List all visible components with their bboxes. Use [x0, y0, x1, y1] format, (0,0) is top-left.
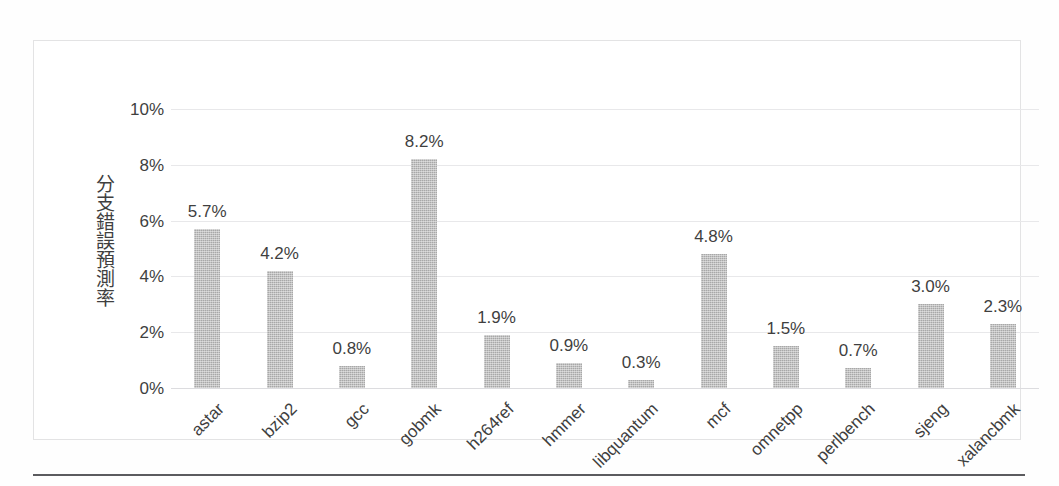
bar: [773, 346, 799, 388]
gridline: [171, 109, 1039, 110]
y-axis-tick-labels: 10%8%6%4%2%0%: [96, 109, 164, 388]
bar-value-label: 1.9%: [454, 309, 540, 327]
bar: [339, 366, 365, 388]
gridline: [171, 165, 1039, 166]
bar-value-label: 2.3%: [960, 298, 1046, 316]
y-axis-tick-label: 8%: [104, 157, 164, 174]
y-axis-tick-label: 6%: [104, 213, 164, 230]
bar-value-label: 0.3%: [598, 354, 684, 372]
chart-frame: 分支錯誤預測率 10%8%6%4%2%0% 5.7%4.2%0.8%8.2%1.…: [33, 40, 1021, 440]
bar: [628, 380, 654, 388]
x-axis-category-labels: astarbzip2gccgobmkh264refhmmerlibquantum…: [171, 390, 1039, 485]
bar: [411, 159, 437, 388]
bar-value-label: 3.0%: [888, 278, 974, 296]
bar: [845, 368, 871, 388]
plot-area: 5.7%4.2%0.8%8.2%1.9%0.9%0.3%4.8%1.5%0.7%…: [171, 109, 1039, 388]
bar-value-label: 1.5%: [743, 320, 829, 338]
gridline: [171, 276, 1039, 277]
bar-value-label: 0.8%: [309, 340, 395, 358]
bar: [267, 271, 293, 388]
y-axis-tick-label: 0%: [104, 380, 164, 397]
bar-value-label: 4.8%: [671, 228, 757, 246]
bar: [990, 324, 1016, 388]
bar-value-label: 0.9%: [526, 337, 612, 355]
gridline: [171, 332, 1039, 333]
gridline: [171, 221, 1039, 222]
bar-value-label: 0.7%: [815, 342, 901, 360]
bar: [194, 229, 220, 388]
bar: [484, 335, 510, 388]
bar: [918, 304, 944, 388]
gridline: [171, 388, 1039, 389]
bar: [701, 254, 727, 388]
bar-value-label: 5.7%: [164, 203, 250, 221]
y-axis-tick-label: 4%: [104, 268, 164, 285]
y-axis-tick-label: 2%: [104, 324, 164, 341]
bar: [556, 363, 582, 388]
y-axis-tick-label: 10%: [104, 101, 164, 118]
bar-value-label: 8.2%: [381, 133, 467, 151]
bar-value-label: 4.2%: [237, 245, 323, 263]
